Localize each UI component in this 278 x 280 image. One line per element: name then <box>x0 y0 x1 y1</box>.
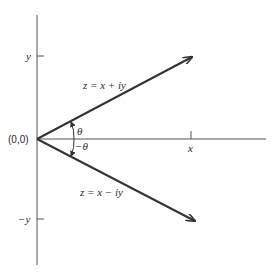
lower-vector-label: z = x − iy <box>79 186 123 198</box>
x-tick-label: x <box>187 142 193 154</box>
angle-upper-label: θ <box>77 125 83 137</box>
lower-vector-arrow <box>37 139 195 221</box>
upper-vector-arrow <box>37 57 192 139</box>
neg-y-tick-label: −y <box>18 213 30 225</box>
complex-conjugate-diagram: (0,0) y −y x z = x + iy z = x − iy θ −θ <box>0 0 278 280</box>
y-tick-label: y <box>25 50 31 62</box>
upper-vector-label: z = x + iy <box>82 79 126 91</box>
angle-arc-lower <box>71 139 74 156</box>
angle-lower-label: −θ <box>75 140 88 152</box>
angle-arc-upper <box>71 122 74 139</box>
origin-label: (0,0) <box>8 134 29 145</box>
